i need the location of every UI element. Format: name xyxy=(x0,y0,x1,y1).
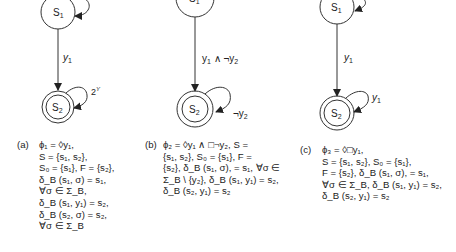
panel-b-graph: S1 y1 ∧ ¬y2 S2 ¬y2 xyxy=(176,0,248,127)
transition-label-c: y1 xyxy=(343,52,353,64)
self-loop-s2-a xyxy=(66,87,87,108)
caption-a-line: δ_B (s₁, y₁) = s₂, xyxy=(39,197,114,209)
transition-label-a: y1 xyxy=(62,52,72,64)
state-s2-b-label: S2 xyxy=(189,104,200,116)
caption-a-line: S₀ = {s₁}, F = {s₂}, xyxy=(39,162,114,174)
caption-a-line: δ_B (s₁, σ) = s₁, xyxy=(39,174,114,186)
caption-a-line: ∀σ ∈ Σ_B xyxy=(39,220,114,232)
self-loop-s2-b xyxy=(205,87,230,112)
caption-c-line: δ_B (s₂, y₁) = s₂ xyxy=(322,190,442,202)
caption-a-line: ϕ₁ = ◊y₁, xyxy=(39,139,114,151)
caption-b-line: Σ_B \ {y₂}, δ_B (s₁, y₁) = s₂, xyxy=(163,174,280,186)
caption-b-tag: (b) xyxy=(145,139,157,151)
self-loop-label-a: 2Y xyxy=(91,86,101,97)
state-s2-a-label: S2 xyxy=(52,102,63,114)
state-s1-a-label: S1 xyxy=(53,7,64,19)
panel-c-graph: S1 y1 S2 y1 xyxy=(320,0,381,130)
caption-a-line: ∀σ ∈ Σ_B, xyxy=(39,185,114,197)
caption-b-line: δ_B (s₂, y₁) = s₂ xyxy=(163,185,280,197)
caption-b-line: {s₂}, δ_B (s₁, σ), = s₁, ∀σ ∈ xyxy=(163,162,280,174)
caption-b-line: {s₁, s₂}, S₀ = {s₁}, F = xyxy=(163,151,280,163)
caption-a-line: S = {s₁, s₂}, xyxy=(39,151,114,163)
panel-a-graph: S1 y1 S2 2Y xyxy=(41,0,101,123)
caption-c-line: ϕ₃ = ◊□y₁, xyxy=(322,144,442,156)
transition-label-b: y1 ∧ ¬y2 xyxy=(202,53,238,65)
caption-c-line: F = {s₂}, δ_B (s₁, σ), = s₁, xyxy=(322,167,442,179)
state-s1-b-label: S1 xyxy=(189,0,200,5)
state-s1-c-label: S1 xyxy=(331,2,342,14)
self-loop-label-c: y1 xyxy=(371,92,381,104)
state-s2-c-label: S2 xyxy=(331,108,342,120)
caption-c-tag: (c) xyxy=(300,144,311,156)
caption-a-tag: (a) xyxy=(17,139,29,151)
caption-c-line: ∀σ ∈ Σ_B, δ_B (s₁, y₁) = s₂, xyxy=(322,179,442,191)
caption-a-line: δ_B (s₂, σ) = s₂, xyxy=(39,209,114,221)
caption-b-line: ϕ₂ = ◊y₁ ∧ □¬y₂, S = xyxy=(163,139,280,151)
caption-c-line: S = {s₁, s₂}, S₀ = {s₁}, xyxy=(322,156,442,168)
self-loop-label-b: ¬y2 xyxy=(233,108,248,120)
